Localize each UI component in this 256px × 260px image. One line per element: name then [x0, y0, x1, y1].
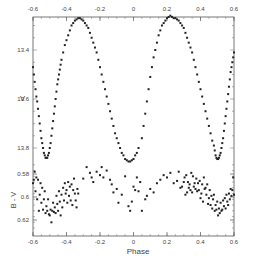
bottom-x-tick-label: -0.4 — [61, 239, 72, 245]
data-point — [82, 20, 84, 22]
data-point — [149, 188, 151, 190]
data-point — [32, 182, 34, 184]
data-point — [229, 198, 231, 200]
data-point — [40, 137, 42, 139]
data-point — [37, 108, 39, 110]
bottom-x-tick-label: -0.2 — [95, 239, 106, 245]
data-point — [62, 51, 64, 53]
data-point — [72, 22, 74, 24]
data-point — [64, 44, 66, 46]
data-point — [111, 118, 113, 120]
data-point — [233, 194, 235, 196]
data-point — [82, 178, 84, 180]
data-point — [149, 76, 151, 78]
data-point — [54, 105, 56, 107]
data-point — [211, 140, 213, 142]
data-point — [203, 103, 205, 105]
data-point — [195, 178, 197, 180]
data-point — [156, 42, 158, 44]
data-point — [230, 195, 232, 197]
data-point — [159, 29, 161, 31]
data-point — [40, 202, 42, 204]
data-point — [183, 27, 185, 29]
data-point — [146, 195, 148, 197]
data-point — [112, 191, 114, 193]
data-point — [96, 51, 98, 53]
bv-tick-label: 0.62 — [17, 217, 29, 223]
data-point — [202, 201, 204, 203]
top-x-tick-label: 0 — [132, 6, 136, 12]
data-point — [50, 135, 52, 137]
data-point — [201, 183, 203, 185]
data-point — [225, 108, 227, 110]
data-point — [225, 115, 227, 117]
data-point — [63, 199, 65, 201]
data-point — [60, 194, 62, 196]
data-point — [134, 189, 136, 191]
data-point — [122, 154, 124, 156]
axis-ticks — [33, 17, 234, 236]
data-point — [133, 158, 135, 160]
v-light-curve-points — [32, 15, 235, 163]
data-point — [35, 88, 37, 90]
data-point — [230, 66, 232, 68]
data-point — [228, 86, 230, 88]
data-point — [164, 20, 166, 22]
data-point — [148, 88, 150, 90]
data-point — [200, 197, 202, 199]
data-point — [229, 78, 231, 80]
data-point — [39, 194, 41, 196]
data-point — [44, 190, 46, 192]
data-point — [56, 83, 58, 85]
data-point — [201, 96, 203, 98]
data-point — [36, 198, 38, 200]
data-point — [49, 147, 51, 149]
data-point — [191, 51, 193, 53]
data-point — [32, 66, 34, 68]
data-point — [169, 172, 171, 174]
data-point — [38, 115, 40, 117]
plot-canvas: -0.6-0.4-0.200.20.40.6 -0.6-0.4-0.200.20… — [0, 0, 256, 260]
data-point — [154, 49, 156, 51]
data-point — [200, 193, 202, 195]
data-point — [75, 199, 77, 201]
data-point — [188, 42, 190, 44]
data-point — [112, 125, 114, 127]
data-point — [44, 154, 46, 156]
phase-light-curve-chart: -0.6-0.4-0.200.20.40.6 -0.6-0.4-0.200.20… — [0, 0, 256, 260]
data-point — [71, 183, 73, 185]
data-point — [226, 201, 228, 203]
top-x-tick-labels: -0.6-0.4-0.200.20.40.6 — [28, 6, 239, 12]
data-point — [218, 208, 220, 210]
data-point — [216, 201, 218, 203]
data-point — [144, 198, 146, 200]
data-point — [193, 59, 195, 61]
data-point — [87, 27, 89, 29]
data-point — [218, 157, 220, 159]
v-axis-label: V — [20, 94, 25, 103]
plot-frame — [33, 17, 234, 236]
data-point — [183, 181, 185, 183]
data-point — [156, 182, 158, 184]
data-point — [220, 147, 222, 149]
data-point — [222, 137, 224, 139]
data-point — [205, 187, 207, 189]
data-point — [224, 197, 226, 199]
data-point — [73, 178, 75, 180]
data-point — [33, 74, 35, 76]
data-point — [61, 206, 63, 208]
data-point — [35, 176, 37, 178]
data-point — [54, 206, 56, 208]
data-point — [208, 125, 210, 127]
phase-axis-label: Phase — [127, 247, 150, 256]
data-point — [189, 47, 191, 49]
data-point — [45, 212, 47, 214]
data-point — [215, 204, 217, 206]
data-point — [213, 194, 215, 196]
data-point — [220, 202, 222, 204]
bv-axis-label: B - V — [9, 192, 18, 209]
data-point — [146, 100, 148, 102]
data-point — [42, 147, 44, 149]
data-point — [136, 152, 138, 154]
data-point — [67, 181, 69, 183]
